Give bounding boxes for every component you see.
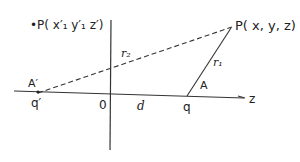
origin-label: 0 [99,99,107,111]
r1-label: r₁ [213,57,223,69]
angle-a-label: A [200,80,208,92]
angle-a-image-label: A′ [28,78,38,90]
z-axis [14,91,244,98]
point-p-image-label: •P( x′₁ y′₁ z′) [30,19,103,31]
distance-label: d [137,100,145,112]
vertical-axis [110,20,111,150]
z-axis-label: z [249,93,255,105]
point-p-label: P( x, y, z) [235,20,296,32]
r1-line [187,28,231,96]
charge-q-image-label: q′ [31,97,41,109]
charge-q-label: q [183,101,191,113]
charge-q-image-dot [36,90,39,93]
r2-label: r₂ [121,48,131,60]
